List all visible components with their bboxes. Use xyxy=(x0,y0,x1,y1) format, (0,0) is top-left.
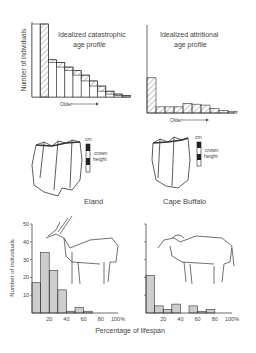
bar xyxy=(66,311,75,313)
bar xyxy=(147,78,156,113)
x-tick-label: 40 xyxy=(63,316,69,322)
y-tick-label: 20 xyxy=(23,274,29,280)
bar xyxy=(172,304,181,313)
bottom-ylabel: Number of individuals xyxy=(9,239,15,297)
scale-caption-2: height xyxy=(93,156,107,162)
x-tick-label: 20 xyxy=(160,316,166,322)
bar xyxy=(206,309,215,313)
bottom-xlabel: Percentage of lifespan xyxy=(95,327,165,335)
x-tick-label: 80 xyxy=(98,316,104,322)
x-tick-label: 20 xyxy=(46,316,52,322)
bar xyxy=(219,110,228,113)
bar xyxy=(174,107,183,113)
catastrophic-ylabel: Number of individuals xyxy=(20,28,27,91)
bar xyxy=(155,306,164,313)
bar xyxy=(32,283,41,313)
bar xyxy=(165,107,174,113)
figure: Idealized catastrophic age profile Numbe… xyxy=(0,0,256,353)
bar xyxy=(48,60,56,97)
attritional-bars xyxy=(147,78,237,113)
bar xyxy=(41,252,50,313)
buffalo-illustration xyxy=(158,235,234,284)
y-tick-label: 50 xyxy=(23,221,29,227)
bar xyxy=(58,290,67,313)
bar xyxy=(163,309,172,313)
scale-unit: cm xyxy=(85,136,92,142)
bar xyxy=(57,63,65,97)
catastrophic-title-2: age profile xyxy=(73,41,106,49)
bar xyxy=(32,24,40,97)
scale-caption-2: height xyxy=(204,153,218,159)
bar xyxy=(183,103,192,113)
bar xyxy=(84,311,93,313)
bar xyxy=(228,111,237,113)
bar xyxy=(189,306,198,313)
bar xyxy=(146,276,155,313)
bar xyxy=(75,308,84,313)
catastrophic-xlabel: Older xyxy=(60,101,73,107)
catastrophic-chart: Idealized catastrophic age profile Numbe… xyxy=(20,22,130,107)
y-tick-label: 10 xyxy=(23,292,29,298)
x-tick-label: 60 xyxy=(195,316,201,322)
attritional-chart: Idealized attritional age profile Older xyxy=(147,25,237,123)
x-tick-label: 100% xyxy=(225,316,239,322)
bar xyxy=(192,104,201,113)
scale-unit: cm xyxy=(195,134,202,140)
bar xyxy=(210,109,219,113)
bar xyxy=(156,107,165,113)
x-tick-label: 60 xyxy=(81,316,87,322)
buffalo-histogram: 20406080100% xyxy=(144,224,239,322)
buffalo-scale-bar: cm crown height xyxy=(195,134,219,166)
x-tick-label: 80 xyxy=(212,316,218,322)
eland-tooth-drawing xyxy=(32,140,82,196)
buffalo-tooth-drawing xyxy=(152,137,190,188)
bar xyxy=(49,270,58,313)
y-tick-label: 30 xyxy=(23,257,29,263)
attritional-title-1: Idealized attritional xyxy=(160,31,219,38)
bar xyxy=(198,311,207,313)
eland-histogram: 102030405020406080100% Number of individ… xyxy=(9,216,125,322)
bar xyxy=(201,105,210,113)
attritional-title-2: age profile xyxy=(174,41,207,49)
x-tick-label: 100% xyxy=(111,316,125,322)
attritional-xlabel: Older xyxy=(170,117,183,123)
catastrophic-title-1: Idealized catastrophic xyxy=(58,31,126,39)
buffalo-label: Cape Buffalo xyxy=(163,197,206,206)
eland-scale-bar: cm crown height xyxy=(85,136,108,172)
y-tick-label: 40 xyxy=(23,239,29,245)
x-tick-label: 40 xyxy=(177,316,183,322)
bar xyxy=(65,67,73,97)
eland-label: Eland xyxy=(84,197,103,206)
